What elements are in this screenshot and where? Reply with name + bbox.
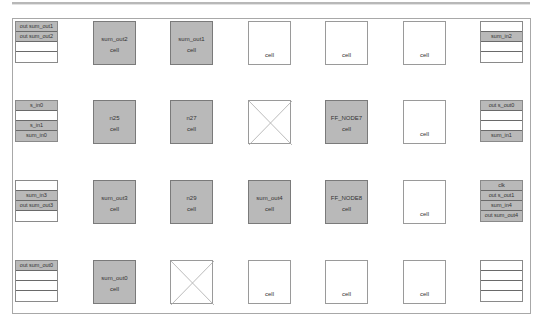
cell-type: cell: [94, 286, 135, 292]
port-slot[interactable]: sum_in0: [16, 131, 57, 141]
port-slot[interactable]: [16, 181, 57, 191]
port-stack-right[interactable]: [480, 260, 523, 302]
placed-cell[interactable]: n25cell: [93, 100, 136, 144]
placed-cell[interactable]: sum_out0cell: [93, 260, 136, 304]
cell-type: cell: [171, 47, 212, 53]
port-stack-left[interactable]: out sum_out0: [15, 260, 58, 302]
port-slot[interactable]: [16, 111, 57, 121]
cell-type: cell: [249, 206, 290, 212]
port-slot[interactable]: [16, 52, 57, 62]
port-slot[interactable]: s_in1: [16, 121, 57, 131]
cell-type: cell: [326, 126, 367, 132]
port-slot[interactable]: clk: [481, 181, 522, 191]
cell-type: cell: [404, 52, 445, 58]
port-slot[interactable]: [481, 261, 522, 271]
port-slot[interactable]: [481, 22, 522, 32]
cell-name: sum_out2: [94, 36, 135, 42]
port-slot[interactable]: [481, 271, 522, 281]
cell-name: sum_out3: [94, 195, 135, 201]
port-slot[interactable]: out sum_out3: [16, 201, 57, 211]
placed-cell[interactable]: sum_out3cell: [93, 180, 136, 224]
port-stack-left[interactable]: s_in0s_in1sum_in0: [15, 100, 58, 142]
placed-cell[interactable]: FF_NODE8cell: [325, 180, 368, 224]
cell-type: cell: [404, 131, 445, 137]
port-slot[interactable]: sum_in3: [16, 191, 57, 201]
empty-cell[interactable]: cell: [403, 100, 446, 144]
cell-type: cell: [404, 211, 445, 217]
cell-name: n25: [94, 115, 135, 121]
placed-cell[interactable]: sum_out4cell: [248, 180, 291, 224]
empty-cell[interactable]: cell: [325, 260, 368, 304]
port-stack-left[interactable]: out sum_out1out sum_out2: [15, 21, 58, 63]
port-slot[interactable]: [481, 281, 522, 291]
port-slot[interactable]: out sum_out2: [16, 32, 57, 42]
empty-cell[interactable]: cell: [403, 21, 446, 65]
empty-cell[interactable]: cell: [248, 21, 291, 65]
empty-cell[interactable]: cell: [403, 180, 446, 224]
port-slot[interactable]: out sum_out4: [481, 211, 522, 221]
port-slot[interactable]: [16, 42, 57, 52]
port-slot[interactable]: [16, 291, 57, 301]
port-slot[interactable]: out sum_out1: [16, 22, 57, 32]
top-rule: [12, 2, 530, 5]
cell-type: cell: [326, 206, 367, 212]
port-stack-right[interactable]: clkout s_out1sum_in4out sum_out4: [480, 180, 523, 222]
cell-type: cell: [171, 126, 212, 132]
cell-type: cell: [94, 126, 135, 132]
cell-type: cell: [94, 47, 135, 53]
port-slot[interactable]: [16, 211, 57, 221]
placed-cell[interactable]: sum_out2cell: [93, 21, 136, 65]
cell-type: cell: [94, 206, 135, 212]
unplaced-cell[interactable]: [248, 100, 291, 144]
port-slot[interactable]: sum_in4: [481, 201, 522, 211]
port-slot[interactable]: out sum_out0: [16, 261, 57, 271]
port-slot[interactable]: [481, 111, 522, 121]
port-slot[interactable]: out s_out0: [481, 101, 522, 111]
cell-name: n29: [171, 195, 212, 201]
cell-type: cell: [249, 52, 290, 58]
port-slot[interactable]: sum_in2: [481, 32, 522, 42]
port-slot[interactable]: [481, 42, 522, 52]
unplaced-cell[interactable]: [170, 260, 213, 304]
cross-icon: [171, 261, 214, 305]
empty-cell[interactable]: cell: [325, 21, 368, 65]
cell-name: sum_out0: [94, 275, 135, 281]
cell-type: cell: [171, 206, 212, 212]
cross-icon: [249, 101, 292, 145]
placed-cell[interactable]: FF_NODE7cell: [325, 100, 368, 144]
placed-cell[interactable]: sum_out1cell: [170, 21, 213, 65]
port-slot[interactable]: [481, 121, 522, 131]
port-stack-left[interactable]: sum_in3out sum_out3: [15, 180, 58, 222]
port-slot[interactable]: [481, 291, 522, 301]
cell-name: FF_NODE8: [326, 195, 367, 201]
empty-cell[interactable]: cell: [248, 260, 291, 304]
port-slot[interactable]: sum_in1: [481, 131, 522, 141]
port-slot[interactable]: [16, 271, 57, 281]
empty-cell[interactable]: cell: [403, 260, 446, 304]
cell-name: FF_NODE7: [326, 115, 367, 121]
cell-type: cell: [404, 291, 445, 297]
cell-type: cell: [326, 52, 367, 58]
port-stack-right[interactable]: sum_in2: [480, 21, 523, 63]
cell-type: cell: [249, 291, 290, 297]
cell-name: n27: [171, 115, 212, 121]
port-slot[interactable]: [481, 52, 522, 62]
port-slot[interactable]: out s_out1: [481, 191, 522, 201]
cell-name: sum_out1: [171, 36, 212, 42]
placed-cell[interactable]: n27cell: [170, 100, 213, 144]
port-slot[interactable]: s_in0: [16, 101, 57, 111]
port-stack-right[interactable]: out s_out0sum_in1: [480, 100, 523, 142]
placed-cell[interactable]: n29cell: [170, 180, 213, 224]
cell-name: sum_out4: [249, 195, 290, 201]
port-slot[interactable]: [16, 281, 57, 291]
cell-type: cell: [326, 291, 367, 297]
